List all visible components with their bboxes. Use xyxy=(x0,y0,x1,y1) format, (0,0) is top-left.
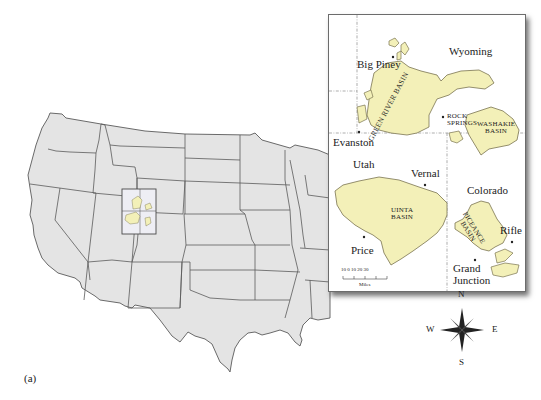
basin-label-washakie-line2: BASIN xyxy=(485,127,507,135)
scale-unit: Miles xyxy=(359,282,370,287)
compass-n: N xyxy=(458,290,465,299)
city-grand-junction-line2: Junction xyxy=(453,274,490,286)
state-label-utah: Utah xyxy=(353,159,374,170)
city-grand-junction: Grand Junction xyxy=(453,263,490,286)
state-label-colorado: Colorado xyxy=(467,185,508,196)
city-vernal: Vernal xyxy=(411,168,440,179)
compass-s: S xyxy=(459,358,464,367)
city-price: Price xyxy=(351,245,374,256)
state-label-wyoming: Wyoming xyxy=(449,46,492,57)
compass-rose: N S E W xyxy=(430,298,494,362)
scale-ticks: 10 0 10 20 30 xyxy=(341,267,369,272)
city-rock-springs: ROCK SPRINGS xyxy=(447,113,477,127)
city-rock-springs-line2: SPRINGS xyxy=(447,119,477,127)
basin-label-uinta-line2: BASIN xyxy=(391,213,413,221)
compass-w: W xyxy=(426,325,435,334)
inset-locator-box xyxy=(122,189,156,234)
city-grand-junction-line1: Grand xyxy=(453,262,481,274)
basin-label-uinta: UINTA BASIN xyxy=(391,207,413,221)
basin-label-washakie: WASHAKIE BASIN xyxy=(477,121,515,135)
city-big-piney: Big Piney xyxy=(357,59,401,70)
city-rifle: Rifle xyxy=(500,225,522,236)
figure-label: (a) xyxy=(24,372,36,384)
inset-map: Wyoming Utah Colorado Big Piney Evanston… xyxy=(328,14,526,292)
compass-e: E xyxy=(492,325,498,334)
scale-bar xyxy=(343,276,387,279)
compass-star-icon xyxy=(430,298,494,362)
